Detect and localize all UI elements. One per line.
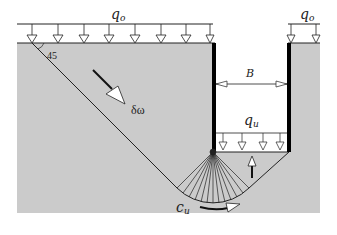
svg-text:q: q: [111, 6, 120, 22]
excavation: [216, 43, 288, 152]
svg-text:q: q: [244, 112, 253, 128]
svg-text:B: B: [245, 67, 254, 80]
svg-text:u: u: [253, 119, 259, 129]
svg-text:o: o: [309, 13, 315, 23]
wall-right: [287, 43, 291, 152]
surcharge-right: q o: [287, 6, 320, 43]
wall-left: [212, 43, 216, 152]
svg-text:c: c: [176, 199, 184, 215]
svg-text:δω: δω: [131, 103, 145, 117]
soil-left: [17, 43, 215, 213]
failure-mechanism-diagram: q o q o B q u: [0, 0, 337, 235]
soil-right: [288, 43, 320, 213]
svg-text:q: q: [300, 6, 309, 22]
surcharge-left: q o: [17, 6, 214, 43]
svg-text:o: o: [120, 13, 126, 23]
svg-text:u: u: [184, 206, 190, 216]
svg-text:45: 45: [47, 50, 57, 61]
